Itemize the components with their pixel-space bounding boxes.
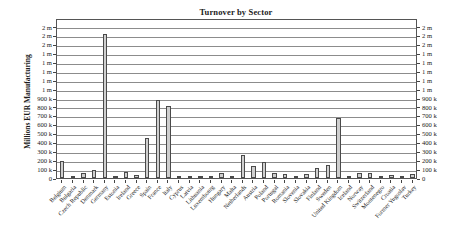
y-axis-tick-label-right: 2 m [422, 42, 462, 49]
y-axis-tick-mark [417, 36, 420, 37]
y-axis-tick-label-left: 300 k [12, 149, 52, 156]
y-axis-tick-label-right: 1 m [422, 51, 462, 58]
y-axis-tick-mark [417, 27, 420, 28]
gridline [57, 144, 416, 145]
y-axis-tick-label-left: 1 m [12, 51, 52, 58]
y-axis-tick-mark [417, 107, 420, 108]
y-axis-tick-mark [53, 54, 56, 55]
chart-title: Turnover by Sector [0, 7, 472, 17]
y-axis-tick-label-right: 300 k [422, 149, 462, 156]
y-axis-tick-label-right: 400 k [422, 140, 462, 147]
gridline [57, 82, 416, 83]
y-axis-tick-mark [417, 99, 420, 100]
y-axis-tick-mark [417, 143, 420, 144]
gridline [57, 64, 416, 65]
y-axis-tick-mark [417, 152, 420, 153]
bar [166, 106, 170, 178]
y-axis-tick-label-right: 1 m [422, 78, 462, 85]
y-axis-tick-label-right: 600 k [422, 122, 462, 129]
gridline [57, 108, 416, 109]
y-axis-tick-label-left: 400 k [12, 140, 52, 147]
y-axis-tick-label-left: 900 k [12, 96, 52, 103]
gridline [57, 135, 416, 136]
y-axis-tick-label-right: 800 k [422, 105, 462, 112]
y-axis-tick-mark [417, 63, 420, 64]
y-axis-tick-label-left: 2 m [12, 25, 52, 32]
gridline [57, 126, 416, 127]
y-axis-tick-label-left: 1 m [12, 69, 52, 76]
y-axis-tick-label-left: 0 [12, 176, 52, 183]
y-axis-tick-label-right: 2 m [422, 25, 462, 32]
y-axis-tick-label-right: 2 m [422, 33, 462, 40]
y-axis-tick-label-left: 1 m [12, 78, 52, 85]
y-axis-tick-mark [53, 81, 56, 82]
y-axis-tick-mark [417, 45, 420, 46]
y-axis-tick-mark [53, 45, 56, 46]
y-axis-tick-label-right: 900 k [422, 96, 462, 103]
y-axis-tick-label-left: 600 k [12, 122, 52, 129]
y-axis-tick-label-left: 800 k [12, 105, 52, 112]
y-axis-tick-mark [417, 116, 420, 117]
y-axis-tick-mark [53, 179, 56, 180]
y-axis-tick-mark [417, 161, 420, 162]
gridline [57, 46, 416, 47]
y-axis-tick-mark [417, 54, 420, 55]
y-axis-tick-mark [417, 81, 420, 82]
bar [60, 161, 64, 178]
gridline [57, 28, 416, 29]
y-axis-tick-label-right: 100 k [422, 167, 462, 174]
y-axis-tick-mark [53, 27, 56, 28]
y-axis-tick-mark [53, 170, 56, 171]
bar [103, 34, 107, 178]
gridline [57, 117, 416, 118]
y-axis-tick-label-left: 1 m [12, 87, 52, 94]
y-axis-tick-label-left: 200 k [12, 158, 52, 165]
gridline [57, 100, 416, 101]
y-axis-tick-mark [417, 72, 420, 73]
bar [336, 118, 340, 178]
y-axis-tick-label-left: 2 m [12, 33, 52, 40]
gridline [57, 73, 416, 74]
y-axis-tick-label-right: 700 k [422, 113, 462, 120]
y-axis-tick-label-right: 1 m [422, 60, 462, 67]
gridline [57, 153, 416, 154]
y-axis-tick-mark [53, 63, 56, 64]
y-axis-tick-label-left: 100 k [12, 167, 52, 174]
y-axis-tick-mark [53, 107, 56, 108]
chart-container: Turnover by Sector Millions EUR Manufact… [0, 0, 472, 235]
y-axis-tick-label-right: 1 m [422, 87, 462, 94]
y-axis-tick-mark [417, 134, 420, 135]
y-axis-tick-mark [53, 161, 56, 162]
gridline [57, 91, 416, 92]
y-axis-tick-label-right: 500 k [422, 131, 462, 138]
y-axis-tick-label-left: 500 k [12, 131, 52, 138]
y-axis-tick-label-left: 1 m [12, 60, 52, 67]
bar [156, 100, 160, 178]
y-axis-tick-mark [53, 72, 56, 73]
y-axis-tick-mark [417, 125, 420, 126]
y-axis-tick-mark [53, 99, 56, 100]
y-axis-tick-label-left: 700 k [12, 113, 52, 120]
y-axis-tick-mark [53, 152, 56, 153]
y-axis-tick-mark [53, 125, 56, 126]
y-axis-tick-mark [417, 90, 420, 91]
y-axis-tick-mark [53, 116, 56, 117]
gridline [57, 37, 416, 38]
y-axis-tick-mark [53, 36, 56, 37]
gridline [57, 55, 416, 56]
y-axis-tick-mark [53, 134, 56, 135]
y-axis-tick-mark [53, 143, 56, 144]
y-axis-tick-label-right: 1 m [422, 69, 462, 76]
y-axis-tick-label-left: 2 m [12, 42, 52, 49]
y-axis-tick-mark [53, 90, 56, 91]
